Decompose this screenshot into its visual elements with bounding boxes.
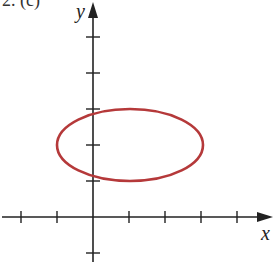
y-axis-arrow-icon: [88, 2, 98, 18]
x-axis-arrow-icon: [257, 212, 273, 222]
part-label: 2. (c): [2, 0, 40, 11]
ellipse-graph: 2. (c) y x: [0, 0, 275, 273]
y-axis-label: y: [74, 0, 85, 23]
ellipse-curve: [57, 109, 203, 181]
x-axis-label: x: [260, 222, 270, 244]
